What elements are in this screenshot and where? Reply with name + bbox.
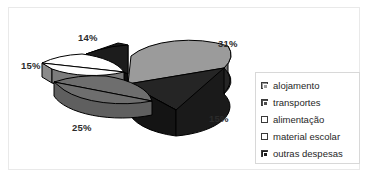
pie-plot-area: 31% 15% 25% 15% 14% [0, 0, 260, 179]
legend-item-transportes: transportes [261, 94, 359, 111]
legend-item-alimentacao: alimentação [261, 111, 359, 128]
chart-legend: alojamento transportes alimentação mater… [255, 72, 360, 164]
legend-label-alimentacao: alimentação [273, 114, 324, 125]
legend-item-outras-despesas: outras despesas [261, 145, 359, 162]
pie-chart-figure: 31% 15% 25% 15% 14% alojamento transport… [0, 0, 368, 179]
data-label-outras-despesas: 14% [78, 32, 98, 43]
pie-chart-graphic [0, 0, 260, 179]
legend-swatch-icon-outras-despesas [261, 150, 268, 157]
legend-item-material-escolar: material escolar [261, 128, 359, 145]
legend-item-alojamento: alojamento [261, 77, 359, 94]
legend-swatch-icon-alojamento [261, 82, 268, 89]
data-label-transportes: 15% [209, 113, 229, 124]
data-label-alojamento: 31% [218, 38, 238, 49]
legend-label-transportes: transportes [273, 97, 321, 108]
legend-swatch-icon-alimentacao [261, 116, 268, 123]
legend-label-material-escolar: material escolar [273, 131, 340, 142]
legend-swatch-icon-transportes [261, 99, 268, 106]
legend-label-outras-despesas: outras despesas [273, 148, 343, 159]
data-label-material-escolar: 15% [21, 60, 41, 71]
data-label-alimentacao: 25% [72, 122, 92, 133]
legend-label-alojamento: alojamento [273, 80, 319, 91]
legend-swatch-icon-material-escolar [261, 133, 268, 140]
